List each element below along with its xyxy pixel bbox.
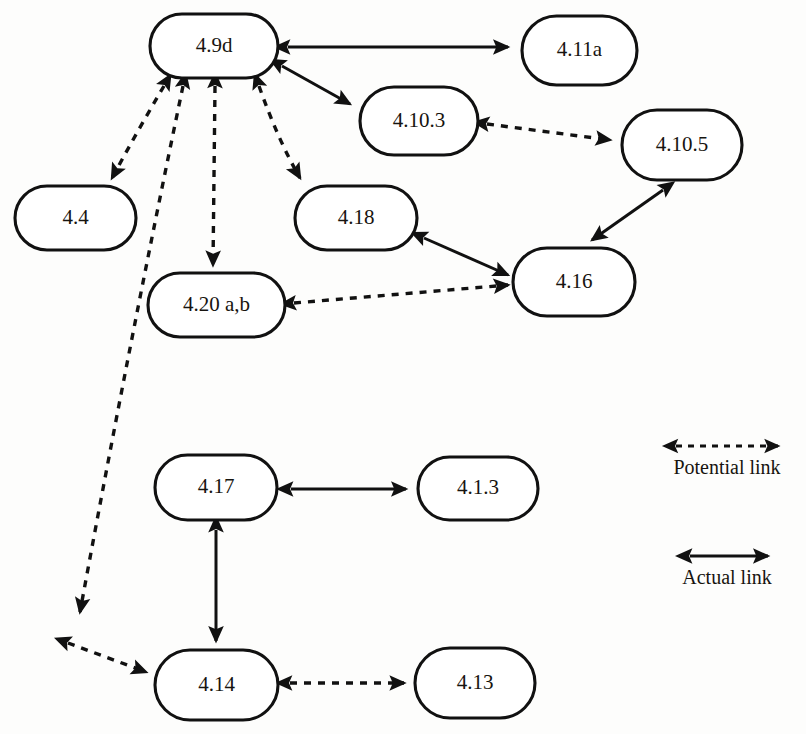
diagram-canvas: 4.9d4.11a4.10.34.10.54.44.184.164.20 a,b… <box>0 0 806 734</box>
node-4-11a[interactable]: 4.11a <box>522 16 637 85</box>
node-4-1-3[interactable]: 4.1.3 <box>418 457 538 520</box>
edge-e3 <box>487 124 610 140</box>
node-4-4[interactable]: 4.4 <box>15 186 136 250</box>
node-4-14[interactable]: 4.14 <box>155 650 278 720</box>
node-label: 4.10.5 <box>656 132 709 156</box>
node-label: 4.20 a,b <box>183 292 250 316</box>
diagram-svg: 4.9d4.11a4.10.34.10.54.44.184.164.20 a,b… <box>0 0 806 734</box>
legend_potential: Potential link <box>673 446 780 478</box>
node-label: 4.16 <box>556 269 593 293</box>
node-label: 4.1.3 <box>457 475 499 499</box>
node-label: 4.17 <box>198 474 235 498</box>
node-4-16[interactable]: 4.16 <box>513 248 635 316</box>
node-4-13[interactable]: 4.13 <box>415 648 535 718</box>
edges-layer <box>68 47 663 683</box>
node-4-20-a-b[interactable]: 4.20 a,b <box>148 273 285 337</box>
node-label: 4.4 <box>62 205 89 229</box>
edge-e10 <box>80 86 183 612</box>
node-label: 4.10.3 <box>393 108 446 132</box>
edge-e9 <box>259 86 300 178</box>
node-4-9d[interactable]: 4.9d <box>150 14 278 78</box>
legend-layer: Potential linkActual link <box>673 446 780 588</box>
nodes-layer: 4.9d4.11a4.10.34.10.54.44.184.164.20 a,b… <box>15 14 742 720</box>
legend_potential-label: Potential link <box>673 456 780 478</box>
node-label: 4.14 <box>198 672 235 696</box>
node-4-10-5[interactable]: 4.10.5 <box>622 110 742 180</box>
node-label: 4.11a <box>557 37 603 61</box>
node-label: 4.18 <box>338 205 375 229</box>
legend_actual: Actual link <box>682 556 771 588</box>
node-4-18[interactable]: 4.18 <box>295 186 417 250</box>
edge-e8 <box>213 86 215 265</box>
edge-e11 <box>68 643 146 672</box>
edge-e7 <box>112 86 164 178</box>
node-4-17[interactable]: 4.17 <box>155 455 277 520</box>
edge-e2 <box>282 66 350 104</box>
legend_actual-label: Actual link <box>682 566 771 588</box>
edge-e4 <box>592 190 663 240</box>
node-4-10-3[interactable]: 4.10.3 <box>360 87 478 155</box>
node-label: 4.9d <box>196 33 233 57</box>
edge-e6 <box>294 285 508 303</box>
node-label: 4.13 <box>457 670 494 694</box>
edge-e5 <box>424 238 508 275</box>
